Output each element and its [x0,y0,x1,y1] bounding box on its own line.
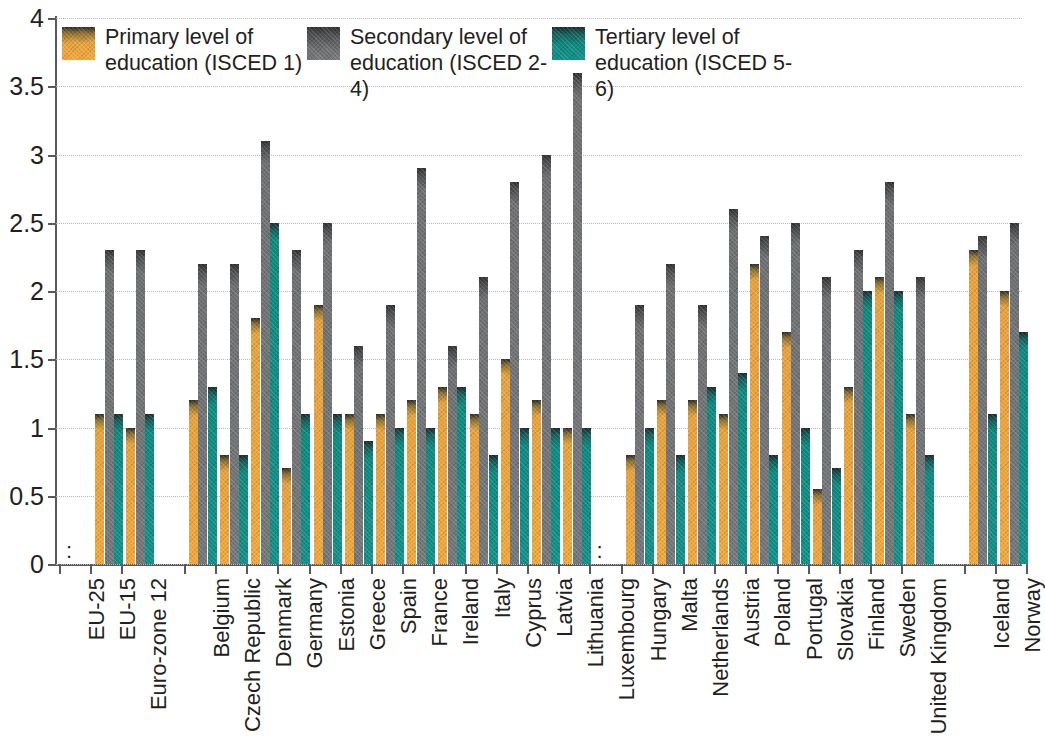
y-tick-mark [48,428,56,430]
bar-primary [813,489,822,564]
bar-tertiary [333,414,342,564]
bar-texture [126,428,135,565]
bar-texture [925,455,934,564]
bar-secondary [230,264,239,564]
bar-secondary [916,277,925,564]
y-tick-label: 3.5 [0,74,44,99]
x-tick-mark [340,564,342,574]
bar-tertiary [832,468,841,564]
legend-item-primary[interactable]: Primary level of education (ISCED 1) [62,24,307,103]
y-tick-mark [48,223,56,225]
bar-texture [438,387,447,564]
x-tick-mark [714,564,716,574]
bar-tertiary [645,428,654,565]
x-tick-mark [90,564,92,574]
bar-texture [698,305,707,564]
bar-texture [657,400,666,564]
x-tick-label: Greece [367,578,389,650]
bar-secondary [698,305,707,564]
x-tick-label: France [429,578,451,646]
gridline [56,564,1022,565]
x-tick-label: Lithuania [585,578,607,667]
bar-secondary [760,236,769,564]
bar-tertiary [707,387,716,564]
bar-primary [251,318,260,564]
bar-texture [261,141,270,564]
x-tick-mark [433,564,435,574]
bar-tertiary [114,414,123,564]
bar-texture [364,441,373,564]
bar-texture [707,387,716,564]
x-tick-label: Sweden [897,578,919,658]
bar-tertiary [863,291,872,564]
bar-texture [906,414,915,564]
swatch-texture [552,27,585,60]
y-tick-label: 0.5 [0,483,44,508]
x-tick-label: Austria [741,578,763,646]
bar-primary [189,400,198,564]
bar-primary [282,468,291,564]
legend-label: Primary level of education (ISCED 1) [105,24,302,76]
bar-secondary [136,250,145,564]
bar-tertiary [489,455,498,564]
x-tick-mark [277,564,279,574]
bar-texture [198,264,207,564]
bar-tertiary [145,414,154,564]
x-tick-label: Spain [398,578,420,634]
bar-texture [988,414,997,564]
x-tick-label: Germany [304,578,326,668]
x-tick-label: Luxembourg [616,578,638,700]
bar-secondary [542,155,551,565]
bar-texture [666,264,675,564]
no-data-marker: : [66,540,73,562]
bar-texture [189,400,198,564]
x-tick-mark [465,564,467,574]
x-tick-label: United Kingdom [928,578,950,735]
bar-texture [292,250,301,564]
x-tick-mark [527,564,529,574]
x-tick-label: Malta [679,578,701,632]
bar-texture [354,346,363,564]
bar-secondary [386,305,395,564]
legend-swatch-secondary [307,27,340,60]
bar-primary [532,400,541,564]
x-tick-mark [589,564,591,574]
legend-item-secondary[interactable]: Secondary level of education (ISCED 2-4) [307,24,552,103]
bar-primary [688,400,697,564]
bar-texture [501,359,510,564]
bar-primary [875,277,884,564]
bar-secondary [448,346,457,564]
bar-secondary [666,264,675,564]
bar-texture [1000,291,1009,564]
bar-primary [1000,291,1009,564]
bar-primary [407,400,416,564]
y-tick-mark [48,155,56,157]
bar-texture [532,400,541,564]
x-tick-mark [870,564,872,574]
bar-texture [376,414,385,564]
y-tick-label: 3 [0,142,44,167]
bar-texture [969,250,978,564]
bar-tertiary [1019,332,1028,564]
x-tick-mark [621,564,623,574]
bar-tertiary [520,428,529,565]
x-tick-mark [215,564,217,574]
y-tick-mark [48,564,56,566]
bar-secondary [822,277,831,564]
legend-item-tertiary[interactable]: Tertiary level of education (ISCED 5-6) [552,24,797,103]
bar-texture [105,250,114,564]
x-tick-label: Poland [772,578,794,647]
x-tick-mark [652,564,654,574]
bar-texture [114,414,123,564]
bar-texture [729,209,738,564]
bar-texture [822,277,831,564]
x-tick-label: Hungary [648,578,670,661]
x-tick-mark [901,564,903,574]
x-tick-mark [839,564,841,574]
x-tick-mark [59,564,61,574]
x-tick-label: Czech Republic [242,578,264,732]
x-tick-mark [496,564,498,574]
x-tick-label: Cyprus [523,578,545,648]
bar-primary [782,332,791,564]
bar-texture [582,428,591,565]
